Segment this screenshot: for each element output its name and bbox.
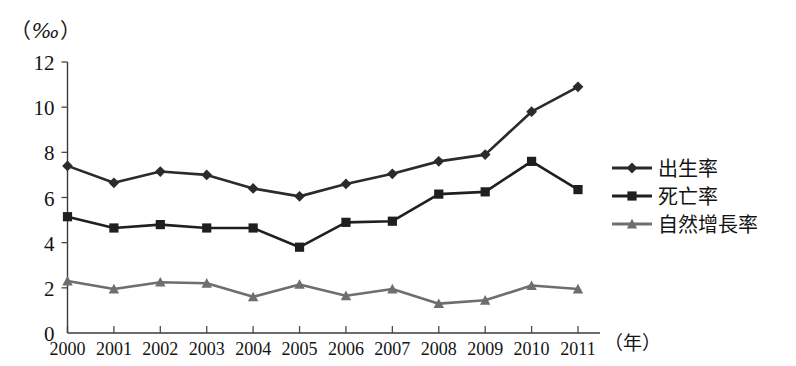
data-point-marker: [109, 177, 120, 188]
y-tick-label: 8: [44, 141, 55, 165]
x-tick-label: 2001: [96, 339, 132, 359]
data-point-marker: [63, 212, 72, 221]
data-point-marker: [294, 191, 305, 202]
data-series-group: [62, 81, 583, 308]
x-axis-title: （年）: [604, 333, 661, 354]
y-tick-label: 2: [44, 277, 55, 301]
data-point-marker: [156, 220, 165, 229]
y-tick-label: 6: [44, 187, 55, 211]
legend-label: 自然增長率: [658, 214, 758, 236]
legend-marker-icon: [627, 191, 636, 200]
x-tick-label: 2005: [282, 339, 318, 359]
legend-item-2[interactable]: 死亡率: [612, 186, 718, 208]
data-point-marker: [295, 243, 304, 252]
data-point-marker: [155, 166, 166, 177]
data-point-marker: [481, 187, 490, 196]
series-2: [63, 157, 583, 252]
series-1: [62, 81, 583, 201]
y-tick-label: 12: [34, 51, 55, 75]
x-tick-label: 2002: [142, 339, 178, 359]
x-tick-label: 2010: [514, 339, 550, 359]
data-point-marker: [201, 170, 212, 181]
data-point-marker: [109, 223, 118, 232]
data-point-marker: [434, 190, 443, 199]
legend-label: 死亡率: [658, 186, 718, 208]
data-point-marker: [341, 179, 352, 190]
data-point-marker: [433, 156, 444, 167]
data-point-marker: [573, 185, 582, 194]
x-axis-tick-group: 2000200120022003200420052006200720082009…: [50, 326, 596, 359]
y-axis-tick-group: 024681012: [34, 51, 68, 346]
legend-label: 出生率: [658, 158, 718, 180]
data-point-marker: [341, 218, 350, 227]
x-tick-label: 2006: [328, 339, 364, 359]
x-tick-label: 2011: [560, 339, 595, 359]
x-tick-label: 2000: [50, 339, 86, 359]
x-tick-label: 2008: [421, 339, 457, 359]
x-tick-label: 2007: [374, 339, 410, 359]
x-tick-label: 2009: [467, 339, 503, 359]
y-tick-label: 10: [34, 96, 55, 120]
series-3: [62, 276, 583, 308]
data-point-marker: [249, 223, 258, 232]
data-point-marker: [202, 223, 211, 232]
y-tick-label: 4: [44, 232, 55, 256]
data-point-marker: [248, 183, 259, 194]
data-point-marker: [527, 157, 536, 166]
data-point-marker: [573, 81, 584, 92]
data-point-marker: [62, 160, 73, 171]
data-point-marker: [387, 168, 398, 179]
x-tick-label: 2004: [235, 339, 271, 359]
x-tick-label: 2003: [189, 339, 225, 359]
data-point-marker: [388, 217, 397, 226]
chart-container: （‰） 024681012 20002001200220032004200520…: [0, 0, 796, 366]
legend-item-1[interactable]: 出生率: [612, 158, 718, 180]
chart-legend: 出生率死亡率自然增長率: [612, 158, 758, 236]
line-chart-svg: 024681012 200020012002200320042005200620…: [0, 0, 796, 366]
legend-marker-icon: [627, 163, 638, 174]
series-line: [68, 281, 579, 304]
legend-item-3[interactable]: 自然增長率: [612, 214, 758, 236]
